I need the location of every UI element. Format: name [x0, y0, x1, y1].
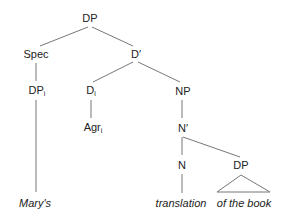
- node-dp-obj: DP: [233, 160, 248, 171]
- node-n: N: [178, 160, 186, 171]
- leaf-of-the-book: of the book: [217, 198, 271, 209]
- edge-dp-dbar: [92, 27, 133, 46]
- node-dp-i: DPi: [29, 85, 46, 97]
- node-dp-root: DP: [82, 13, 97, 24]
- edge-dbar-di: [93, 62, 133, 82]
- edge-dbar-np: [138, 62, 180, 82]
- edge-dp-spec: [40, 27, 88, 46]
- node-spec: Spec: [23, 49, 48, 60]
- node-d-i: Di: [86, 85, 96, 97]
- node-np: NP: [175, 86, 190, 97]
- triangle-dp-of-the-book: [217, 175, 270, 192]
- tree-edges: [0, 0, 289, 218]
- node-d-bar: D′: [131, 49, 141, 60]
- leaf-translation: translation: [156, 198, 207, 209]
- node-n-bar: N′: [178, 123, 188, 134]
- node-agr-i: Agri: [84, 122, 103, 134]
- leaf-marys: Mary's: [19, 198, 51, 209]
- edge-nbar-dp: [183, 137, 240, 157]
